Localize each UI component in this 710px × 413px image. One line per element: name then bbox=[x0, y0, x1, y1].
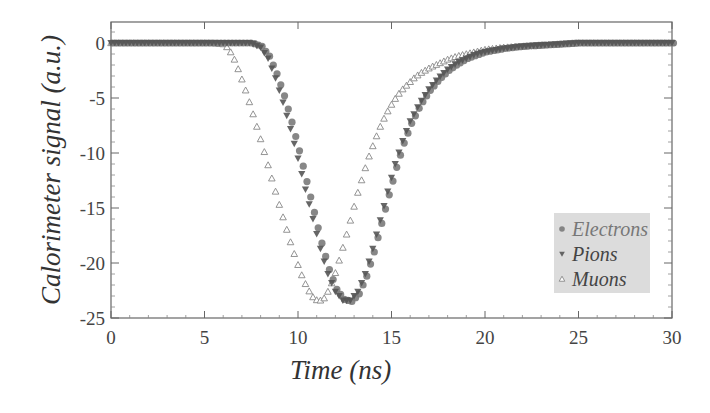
data-point-muons bbox=[370, 143, 377, 149]
data-point-muons bbox=[325, 288, 332, 294]
legend-label-pions: Pions bbox=[571, 243, 618, 265]
data-point-muons bbox=[332, 270, 339, 276]
x-tick-label: 30 bbox=[663, 327, 682, 348]
data-point-pions bbox=[287, 126, 294, 132]
data-point-muons bbox=[373, 133, 380, 139]
data-point-pions bbox=[313, 231, 320, 237]
data-point-pions bbox=[321, 258, 328, 264]
data-point-muons bbox=[242, 87, 249, 93]
data-point-pions bbox=[283, 113, 290, 119]
data-point-muons bbox=[283, 226, 290, 232]
data-point-pions bbox=[309, 216, 316, 222]
data-point-electrons bbox=[296, 147, 303, 154]
x-tick-label: 5 bbox=[200, 327, 210, 348]
y-tick-label: -20 bbox=[80, 253, 105, 274]
data-point-electrons bbox=[318, 240, 325, 247]
data-point-muons bbox=[295, 262, 302, 268]
legend-label-muons: Muons bbox=[571, 268, 627, 290]
x-tick-label: 15 bbox=[382, 327, 401, 348]
data-point-muons bbox=[298, 272, 305, 278]
data-point-pions bbox=[324, 271, 331, 277]
data-point-muons bbox=[250, 111, 257, 117]
data-point-muons bbox=[358, 177, 365, 183]
data-point-muons bbox=[302, 281, 309, 287]
data-point-muons bbox=[343, 231, 350, 237]
x-axis-label: Time (ns) bbox=[290, 355, 391, 386]
data-point-muons bbox=[351, 203, 358, 209]
data-point-muons bbox=[362, 165, 369, 171]
data-point-electrons bbox=[311, 209, 318, 216]
x-tick-label: 0 bbox=[106, 327, 116, 348]
chart-canvas: 0510152025300-5-10-15-20-25ElectronsPion… bbox=[0, 0, 710, 413]
data-point-muons bbox=[377, 123, 384, 129]
legend-label-electrons: Electrons bbox=[571, 218, 648, 240]
data-point-muons bbox=[265, 162, 272, 168]
x-tick-label: 20 bbox=[476, 327, 495, 348]
data-point-muons bbox=[257, 136, 264, 142]
data-point-electrons bbox=[292, 133, 299, 140]
data-point-pions bbox=[268, 65, 275, 71]
x-tick-label: 25 bbox=[569, 327, 588, 348]
y-tick-label: 0 bbox=[96, 33, 106, 54]
data-point-muons bbox=[321, 295, 328, 301]
data-point-pions bbox=[272, 75, 279, 81]
data-point-pions bbox=[279, 100, 286, 106]
data-point-muons bbox=[239, 76, 246, 82]
data-point-muons bbox=[280, 214, 287, 220]
data-point-muons bbox=[366, 153, 373, 159]
data-point-electrons bbox=[300, 163, 307, 170]
data-point-pions bbox=[317, 246, 324, 252]
y-tick-label: -5 bbox=[89, 88, 105, 109]
legend-marker-electrons bbox=[559, 226, 565, 232]
data-point-electrons bbox=[285, 105, 292, 112]
data-point-muons bbox=[261, 149, 268, 155]
y-tick-label: -10 bbox=[80, 143, 105, 164]
data-point-electrons bbox=[315, 224, 322, 231]
data-point-muons bbox=[291, 251, 298, 257]
data-point-electrons bbox=[303, 178, 310, 185]
data-point-muons bbox=[254, 123, 261, 129]
data-point-muons bbox=[388, 101, 395, 107]
data-point-pions bbox=[306, 201, 313, 207]
data-point-electrons bbox=[307, 193, 314, 200]
data-point-pions bbox=[298, 171, 305, 177]
data-point-muons bbox=[276, 201, 283, 207]
data-point-pions bbox=[302, 186, 309, 192]
y-tick-label: -15 bbox=[80, 198, 105, 219]
data-point-muons bbox=[381, 115, 388, 121]
data-point-muons bbox=[347, 217, 354, 223]
y-tick-label: -25 bbox=[80, 308, 105, 329]
data-point-muons bbox=[231, 56, 238, 62]
data-point-muons bbox=[272, 188, 279, 194]
data-point-muons bbox=[355, 189, 362, 195]
data-point-muons bbox=[306, 288, 313, 294]
data-point-pions bbox=[294, 156, 301, 162]
data-point-muons bbox=[287, 239, 294, 245]
data-point-muons bbox=[235, 66, 242, 72]
data-point-muons bbox=[384, 108, 391, 114]
data-point-pions bbox=[291, 141, 298, 147]
data-point-muons bbox=[246, 99, 253, 105]
data-point-muons bbox=[269, 175, 276, 181]
data-point-electrons bbox=[277, 81, 284, 88]
data-point-pions bbox=[276, 87, 283, 93]
data-point-electrons bbox=[281, 92, 288, 99]
y-axis-label: Calorimeter signal (a.u.) bbox=[36, 35, 67, 305]
x-tick-label: 10 bbox=[289, 327, 308, 348]
data-point-muons bbox=[336, 257, 343, 263]
data-point-muons bbox=[340, 244, 347, 250]
data-point-electrons bbox=[288, 119, 295, 126]
